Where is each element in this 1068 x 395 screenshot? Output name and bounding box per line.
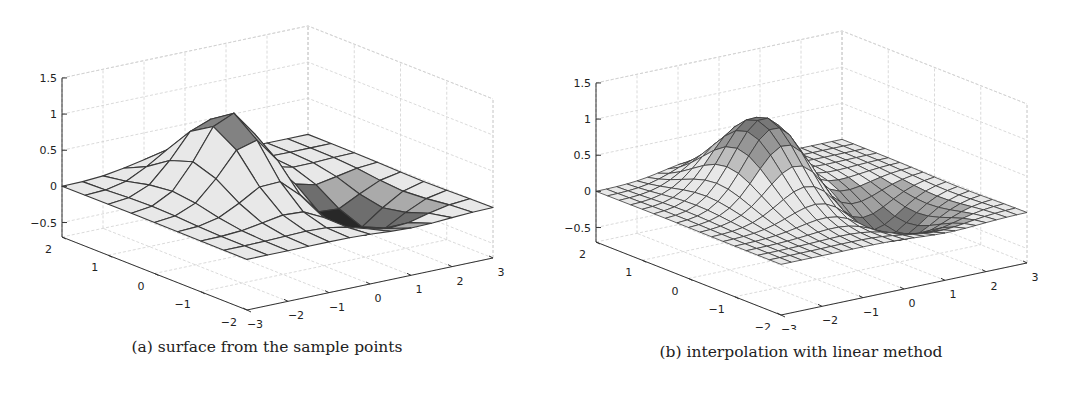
- z-tick-label: 1: [50, 108, 57, 121]
- y-tick-label: 2: [579, 248, 586, 261]
- y-tick-label: −2: [755, 321, 771, 330]
- z-tick-label: 0.5: [40, 144, 58, 157]
- x-tick-label: 0: [375, 292, 382, 305]
- z-tick-label: 0: [584, 185, 591, 198]
- x-tick-label: 1: [950, 288, 957, 301]
- x-tick-label: 0: [909, 297, 916, 310]
- surface-mesh: [62, 113, 493, 259]
- y-tick-label: 1: [91, 261, 98, 274]
- z-tick-label: 1.5: [40, 72, 58, 85]
- x-tick-label: −1: [329, 301, 345, 314]
- z-tick-label: −0.5: [30, 217, 57, 230]
- surface-plot-a: −0.500.511.5−2−1012−3−2−10123: [0, 0, 534, 330]
- surface-mesh: [596, 117, 1027, 264]
- x-tick-label: 2: [991, 280, 998, 293]
- z-tick-label: 1.5: [574, 77, 592, 90]
- panel-a: −0.500.511.5−2−1012−3−2−10123 (a) surfac…: [0, 0, 534, 395]
- surface-plot-b: −0.500.511.5−2−1012−3−2−10123: [534, 0, 1068, 330]
- y-tick-label: −2: [221, 316, 237, 329]
- y-tick-label: 0: [672, 285, 679, 298]
- z-tick-label: −0.5: [564, 222, 591, 235]
- caption-b: (b) interpolation with linear method: [534, 343, 1068, 361]
- y-tick-label: 1: [625, 266, 632, 279]
- z-tick-label: 1: [584, 113, 591, 126]
- caption-a: (a) surface from the sample points: [0, 338, 534, 356]
- x-tick-label: 2: [457, 275, 464, 288]
- x-tick-label: −3: [781, 323, 797, 330]
- x-tick-label: −1: [863, 306, 879, 319]
- y-tick-label: 2: [45, 243, 52, 256]
- x-tick-label: 1: [416, 283, 423, 296]
- y-tick-label: −1: [175, 298, 191, 311]
- y-tick-label: 0: [138, 280, 145, 293]
- x-tick-label: −2: [822, 314, 838, 327]
- x-tick-label: −3: [247, 318, 263, 330]
- x-tick-label: −2: [288, 309, 304, 322]
- x-tick-label: 3: [1032, 271, 1039, 284]
- z-tick-label: 0.5: [574, 149, 592, 162]
- z-tick-label: 0: [50, 180, 57, 193]
- x-tick-label: 3: [498, 266, 505, 279]
- y-tick-label: −1: [709, 303, 725, 316]
- panel-b: −0.500.511.5−2−1012−3−2−10123 (b) interp…: [534, 0, 1068, 395]
